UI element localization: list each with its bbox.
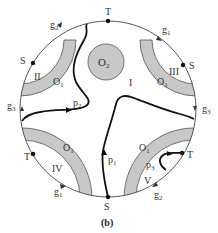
obstacle-o1-bottom-right [124, 128, 194, 198]
label-region-iii: III [169, 66, 179, 77]
label-t-top: T [105, 6, 111, 17]
arrow-g3-left [20, 106, 24, 111]
label-g2-upper: g2 [50, 19, 59, 32]
label-g1-upper: g1 [162, 24, 171, 37]
label-p2: p2 [73, 97, 82, 110]
label-o1-top-left: O1 [53, 76, 64, 89]
label-s-bottom: S [104, 201, 110, 212]
point-t-lower-right [180, 151, 184, 155]
label-region-iv: IV [52, 163, 63, 174]
point-s-upper-right [181, 63, 185, 67]
point-t-lower-left [31, 152, 35, 156]
arrow-p1 [101, 149, 107, 155]
label-region-i: I [129, 77, 132, 88]
label-region-v: V [144, 175, 152, 186]
label-p1: p1 [108, 154, 117, 167]
label-t-lower-right: T [187, 149, 193, 160]
label-p3: p3 [146, 159, 155, 172]
label-s-upper-left: S [20, 55, 26, 66]
label-s-upper-right: S [189, 60, 195, 71]
point-t-top [106, 19, 110, 23]
label-g3-right: g3 [202, 103, 211, 116]
arrow-p2 [66, 107, 72, 113]
point-s-upper-left [31, 61, 35, 65]
obstacle-o1-top-left [20, 40, 76, 96]
label-g3-left: g3 [7, 100, 16, 113]
label-g2-lower: g2 [154, 189, 163, 202]
obstacle-o1-top-right [140, 40, 196, 96]
figure-caption: (b) [101, 217, 113, 229]
topology-diagram: T S S T T S g2 g1 g3 g3 g1 g2 I II III I… [0, 0, 218, 233]
point-s-bottom [106, 195, 110, 199]
label-region-ii: II [34, 71, 41, 82]
label-t-lower-left: T [24, 151, 30, 162]
